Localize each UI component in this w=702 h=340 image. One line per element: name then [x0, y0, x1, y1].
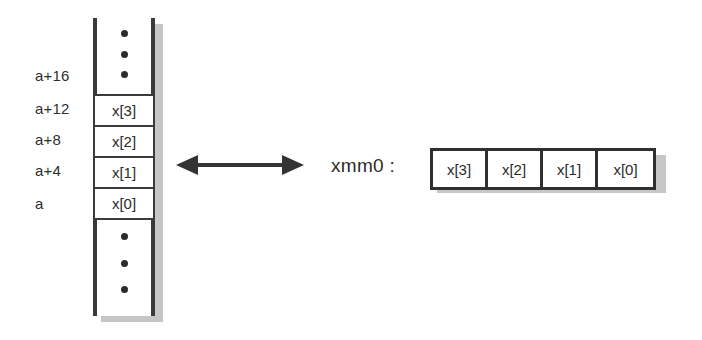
address-label-a-plus-16: a+16 [35, 68, 70, 83]
memory-column: x[3] x[2] x[1] x[0] [93, 18, 155, 316]
address-label-a-plus-12: a+12 [35, 101, 70, 116]
register-name-label: xmm0 : [331, 156, 395, 175]
address-label-a-plus-8: a+8 [35, 132, 61, 147]
register-lane: x[3] [433, 151, 488, 187]
diagram-canvas: a+16 a+12 a+8 a+4 a x[3] x[2] x[1] x[0] [0, 0, 702, 340]
ellipsis-dot [121, 260, 128, 267]
ellipsis-dot [121, 286, 128, 293]
vertical-ellipsis-icon-top [97, 30, 151, 78]
register-lane: x[2] [488, 151, 543, 187]
address-label-a: a [35, 196, 44, 211]
ellipsis-dot [121, 51, 128, 58]
memory-cell: x[2] [93, 125, 155, 158]
register-lane: x[0] [598, 151, 653, 187]
bidirectional-arrow-icon [176, 150, 304, 180]
memory-cell-group: x[3] x[2] x[1] x[0] [93, 94, 155, 218]
memory-cell: x[3] [93, 94, 155, 127]
ellipsis-dot [121, 71, 128, 78]
memory-cell: x[1] [93, 156, 155, 189]
ellipsis-dot [121, 30, 128, 37]
memory-cell: x[0] [93, 187, 155, 220]
address-label-a-plus-4: a+4 [35, 163, 61, 178]
vertical-ellipsis-icon-bottom [97, 233, 151, 293]
register-lane: x[1] [543, 151, 598, 187]
ellipsis-dot [121, 233, 128, 240]
xmm-register-box: x[3] x[2] x[1] x[0] [430, 148, 656, 190]
